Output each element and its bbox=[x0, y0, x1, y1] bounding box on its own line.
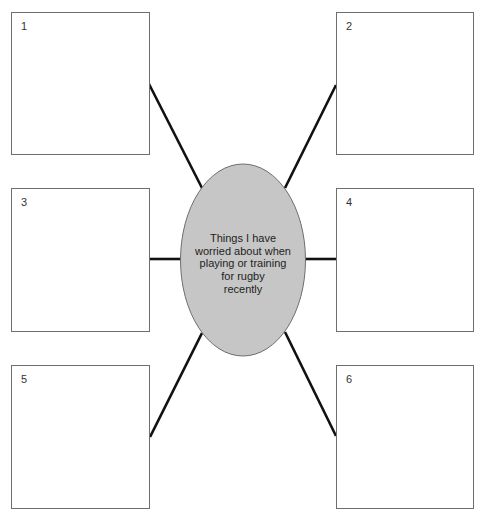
central-topic-line: recently bbox=[183, 283, 303, 296]
box-number: 5 bbox=[21, 374, 27, 385]
central-topic-line: playing or training bbox=[183, 257, 303, 270]
box-number: 1 bbox=[21, 21, 27, 32]
central-topic-line: worried about when bbox=[183, 245, 303, 258]
connector-1 bbox=[149, 84, 202, 188]
box-number: 3 bbox=[21, 197, 27, 208]
box-3[interactable]: 3 bbox=[11, 188, 150, 332]
box-number: 4 bbox=[346, 197, 352, 208]
box-number: 2 bbox=[346, 21, 352, 32]
box-1[interactable]: 1 bbox=[11, 12, 150, 155]
central-topic-label: Things I have worried about when playing… bbox=[183, 232, 303, 296]
connector-5 bbox=[150, 333, 202, 437]
box-6[interactable]: 6 bbox=[336, 365, 474, 509]
connector-2 bbox=[285, 85, 336, 188]
box-2[interactable]: 2 bbox=[336, 12, 474, 155]
box-5[interactable]: 5 bbox=[11, 365, 150, 509]
connector-6 bbox=[285, 332, 336, 436]
central-topic-line: Things I have bbox=[183, 232, 303, 245]
central-topic-line: for rugby bbox=[183, 270, 303, 283]
box-number: 6 bbox=[346, 374, 352, 385]
box-4[interactable]: 4 bbox=[336, 188, 474, 332]
